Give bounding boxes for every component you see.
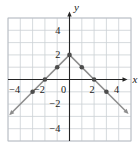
x-tick-label: −2 (34, 84, 45, 95)
y-tick-label: 4 (55, 25, 60, 36)
x-tick-label: 4 (114, 84, 119, 95)
y-tick-label: 2 (55, 49, 60, 60)
data-point (92, 77, 97, 82)
x-tick-label: 2 (90, 84, 95, 95)
y-tick-label: −2 (50, 98, 61, 109)
data-point (43, 77, 48, 82)
x-tick-label: 0 (61, 84, 66, 95)
data-point (104, 90, 109, 95)
data-point (80, 65, 85, 70)
x-axis-label: x (132, 73, 138, 85)
x-tick-label: −4 (9, 84, 20, 95)
y-tick-label: −4 (50, 123, 61, 134)
graph-panel: −4−202442−2−4xy (0, 0, 138, 149)
function-graph: −4−202442−2−4xy (0, 0, 138, 149)
y-axis-label: y (73, 1, 79, 13)
data-point (67, 53, 72, 58)
data-point (55, 65, 60, 70)
